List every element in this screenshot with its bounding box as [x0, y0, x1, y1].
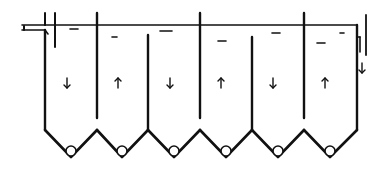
baffles — [97, 13, 304, 130]
sludge-outlet-icon — [66, 146, 76, 156]
flow-arrows — [64, 78, 328, 88]
sludge-outlet-icon — [325, 146, 335, 156]
arrow-down-icon — [359, 63, 365, 73]
arrow-up-icon — [115, 78, 121, 88]
sludge-outlet-icon — [169, 146, 179, 156]
arrow-down-icon — [270, 78, 276, 88]
outlet-arrow-icon — [359, 63, 365, 73]
arrow-up-icon — [218, 78, 224, 88]
sludge-outlet-icon — [221, 146, 231, 156]
arrow-down-icon — [167, 78, 173, 88]
arrow-down-icon — [64, 78, 70, 88]
sludge-outlet-icon — [117, 146, 127, 156]
outlet-weir — [357, 15, 366, 55]
arrow-up-icon — [322, 78, 328, 88]
inlet-pipe — [22, 13, 55, 47]
settling-tank-diagram — [0, 0, 386, 172]
hoppers — [45, 130, 357, 157]
sludge-outlet-icon — [273, 146, 283, 156]
